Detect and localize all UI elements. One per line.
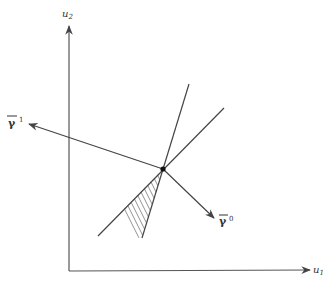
svg-text:γ: γ xyxy=(219,215,227,228)
svg-text:γ: γ xyxy=(8,117,16,130)
intersection-point xyxy=(160,166,165,171)
vector-gamma-bar-0 xyxy=(163,169,214,218)
constraint-line-shallow xyxy=(98,108,224,236)
y-axis-label: u2 xyxy=(62,8,73,21)
x-axis-label: u1 xyxy=(313,264,324,277)
vector-gamma-bar-1 xyxy=(29,124,163,169)
constraint-line-steep xyxy=(142,84,189,238)
diagram-canvas: u2 u1 γ 1 γ 0 xyxy=(0,0,325,281)
svg-text:1: 1 xyxy=(19,116,23,124)
gamma-bar-1-label: γ 1 xyxy=(7,116,23,130)
x-axis xyxy=(69,270,310,271)
svg-text:0: 0 xyxy=(229,215,233,223)
hatched-feasible-region xyxy=(112,164,182,244)
gamma-bar-0-label: γ 0 xyxy=(219,215,233,228)
